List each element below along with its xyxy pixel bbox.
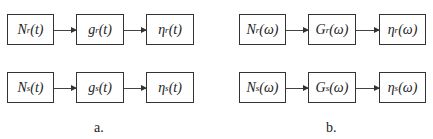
arrow (356, 30, 379, 31)
block-a-s-output: ηs(t) (146, 72, 194, 103)
arrow (286, 30, 308, 31)
argument: (t) (99, 80, 112, 96)
arrow (124, 30, 146, 31)
caption-b: b. (326, 120, 337, 136)
block-b-s-system: Gs(ω) (308, 72, 356, 103)
argument: (t) (169, 80, 182, 96)
symbol: g (88, 22, 95, 38)
argument: (ω) (398, 22, 417, 38)
argument: (ω) (329, 80, 348, 96)
argument: (ω) (259, 22, 278, 38)
symbol: G (316, 80, 326, 96)
symbol: η (158, 80, 165, 96)
argument: (t) (99, 22, 112, 38)
arrow (356, 88, 379, 89)
argument: (t) (169, 22, 182, 38)
symbol: η (158, 22, 165, 38)
symbol: η (388, 22, 395, 38)
argument: (t) (30, 80, 43, 96)
block-a-s-system: gs(t) (76, 72, 124, 103)
symbol: N (17, 80, 26, 96)
symbol: η (388, 80, 395, 96)
block-a-s-input: Ns(t) (7, 72, 54, 103)
arrow (54, 88, 76, 89)
argument: (ω) (259, 80, 278, 96)
argument: (t) (30, 22, 43, 38)
block-b-r-system: Gr(ω) (308, 14, 356, 45)
symbol: g (88, 80, 95, 96)
arrow (54, 30, 76, 31)
block-a-r-input: Nr(t) (7, 14, 54, 45)
arrow (124, 88, 146, 89)
block-b-r-output: ηr(ω) (379, 14, 426, 45)
block-b-s-output: ηs(ω) (379, 72, 426, 103)
argument: (ω) (398, 80, 417, 96)
arrow (286, 88, 308, 89)
block-b-s-input: Ns(ω) (239, 72, 286, 103)
symbol: G (316, 22, 326, 38)
block-a-r-system: gr(t) (76, 14, 124, 45)
argument: (ω) (329, 22, 348, 38)
block-a-r-output: ηr(t) (146, 14, 194, 45)
symbol: N (17, 22, 26, 38)
block-b-r-input: Nr(ω) (239, 14, 286, 45)
symbol: N (246, 80, 255, 96)
caption-a: a. (94, 120, 104, 136)
symbol: N (246, 22, 255, 38)
